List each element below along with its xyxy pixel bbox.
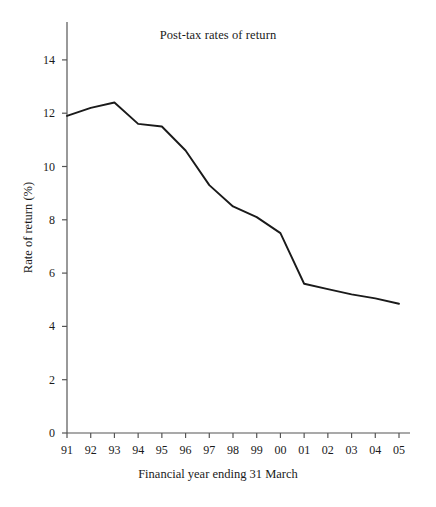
plot-area xyxy=(0,0,436,507)
y-axis-tick-label: 0 xyxy=(29,427,55,439)
x-axis-tick-label: 93 xyxy=(102,444,126,456)
chart-container: Post-tax rates of return Rate of return … xyxy=(0,0,436,507)
x-axis-tick-label: 05 xyxy=(387,444,411,456)
x-axis-tick-label: 02 xyxy=(316,444,340,456)
y-axis-tick-label: 10 xyxy=(29,161,55,173)
x-axis-tick-label: 97 xyxy=(197,444,221,456)
y-axis-tick-label: 4 xyxy=(29,320,55,332)
x-axis-ticks xyxy=(67,433,399,438)
data-series-line xyxy=(67,103,399,304)
x-axis-tick-label: 04 xyxy=(363,444,387,456)
x-axis-tick-label: 94 xyxy=(126,444,150,456)
x-axis-tick-label: 01 xyxy=(292,444,316,456)
y-axis-tick-label: 12 xyxy=(29,107,55,119)
x-axis-tick-label: 95 xyxy=(150,444,174,456)
y-axis-tick-label: 6 xyxy=(29,267,55,279)
x-axis-tick-label: 91 xyxy=(55,444,79,456)
x-axis-tick-label: 00 xyxy=(268,444,292,456)
x-axis-tick-label: 92 xyxy=(79,444,103,456)
y-axis-tick-label: 2 xyxy=(29,374,55,386)
x-axis-tick-label: 99 xyxy=(245,444,269,456)
y-axis-tick-label: 14 xyxy=(29,54,55,66)
x-axis-tick-label: 98 xyxy=(221,444,245,456)
y-axis-tick-label: 8 xyxy=(29,214,55,226)
x-axis-tick-label: 03 xyxy=(340,444,364,456)
x-axis-tick-label: 96 xyxy=(174,444,198,456)
